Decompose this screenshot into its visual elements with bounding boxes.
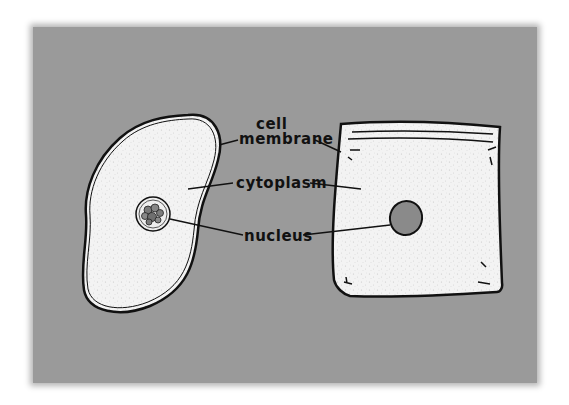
label-membrane: membrane (239, 132, 334, 147)
cell-diagram (0, 0, 569, 405)
nucleus (136, 197, 170, 231)
label-cytoplasm: cytoplasm (236, 176, 327, 191)
zip-bag-model (333, 122, 503, 297)
animal-cell (83, 115, 220, 312)
label-nucleus: nucleus (244, 229, 313, 244)
